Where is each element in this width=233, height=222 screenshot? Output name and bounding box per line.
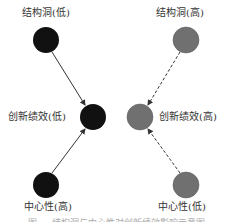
label-performance-low: 创新绩效(低) [8, 111, 66, 123]
node-centrality-high [33, 172, 59, 198]
edge-structural-hole-high-to-performance [148, 52, 180, 105]
edge-centrality-high-to-performance [52, 129, 85, 173]
node-performance-high [127, 104, 153, 130]
node-centrality-low [173, 172, 199, 198]
figure-caption: 图 ... 结构洞与中心性对创新绩效影响示意图 [0, 216, 233, 222]
label-centrality-low: 中心性(低) [158, 201, 206, 213]
edge-structural-hole-low-to-performance [52, 52, 85, 105]
label-centrality-high: 中心性(高) [24, 201, 72, 213]
edge-centrality-low-to-performance [148, 129, 180, 173]
node-structural-hole-low [33, 27, 59, 53]
label-structural-hole-low: 结构洞(低) [22, 7, 70, 19]
node-performance-low [80, 104, 106, 130]
label-structural-hole-high: 结构洞(高) [156, 7, 204, 19]
node-structural-hole-high [173, 27, 199, 53]
label-performance-high: 创新绩效(高) [159, 111, 217, 123]
